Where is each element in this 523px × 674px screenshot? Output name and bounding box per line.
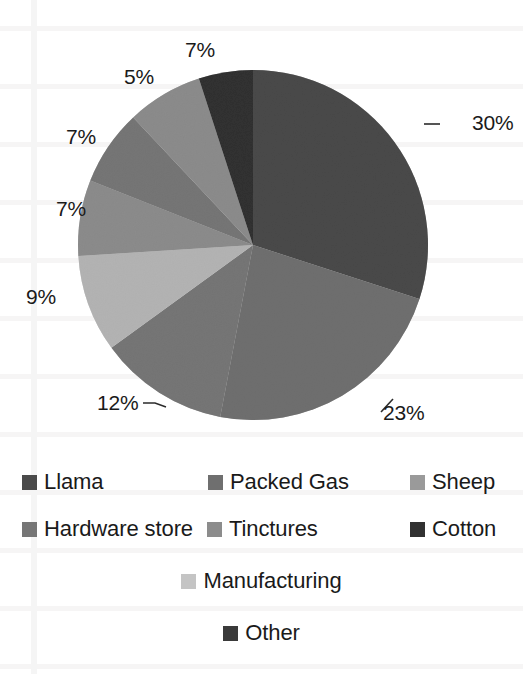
legend-swatch-icon	[207, 522, 222, 537]
legend-item-hardware-store[interactable]: Hardware store	[22, 518, 193, 540]
legend-label: Llama	[44, 471, 103, 493]
legend-row: Manufacturing	[0, 559, 523, 603]
legend-label: Packed Gas	[230, 471, 349, 493]
legend-label: Hardware store	[44, 518, 193, 540]
legend-item-llama[interactable]: Llama	[22, 471, 103, 493]
data-label-manufacturing: 7%	[185, 38, 215, 62]
chart-legend: Llama Packed Gas Sheep Hardware store Ti…	[0, 455, 523, 674]
pie-chart: 30% 23% 12% 9% 7% 7% 5% 7%	[0, 0, 523, 460]
legend-label: Tinctures	[229, 518, 318, 540]
leader-line-sheep	[143, 403, 166, 407]
legend-swatch-icon	[22, 475, 37, 490]
data-label-packed-gas: 23%	[383, 401, 424, 425]
legend-swatch-icon	[22, 522, 37, 537]
pie-grain-overlay	[78, 70, 428, 420]
legend-swatch-icon	[410, 475, 425, 490]
data-label-tinctures: 7%	[56, 197, 86, 221]
legend-swatch-icon	[208, 475, 223, 490]
legend-label: Manufacturing	[203, 570, 341, 592]
legend-item-packed-gas[interactable]: Packed Gas	[208, 471, 349, 493]
legend-item-sheep[interactable]: Sheep	[410, 471, 495, 493]
legend-row: Hardware store Tinctures Cotton	[0, 507, 523, 551]
pie-chart-graphic	[0, 0, 523, 460]
legend-label: Cotton	[432, 518, 496, 540]
legend-item-manufacturing[interactable]: Manufacturing	[181, 570, 341, 592]
legend-item-other[interactable]: Other	[223, 622, 300, 644]
data-label-llama: 30%	[472, 111, 513, 135]
legend-row: Llama Packed Gas Sheep	[0, 460, 523, 504]
legend-row: Other	[0, 611, 523, 655]
legend-swatch-icon	[410, 522, 425, 537]
data-label-hardware-store: 9%	[26, 285, 56, 309]
legend-swatch-icon	[223, 626, 238, 641]
data-label-cotton: 7%	[66, 125, 96, 149]
legend-item-tinctures[interactable]: Tinctures	[207, 518, 318, 540]
legend-item-cotton[interactable]: Cotton	[410, 518, 496, 540]
legend-label: Other	[245, 622, 300, 644]
legend-swatch-icon	[181, 574, 196, 589]
legend-label: Sheep	[432, 471, 495, 493]
data-label-other: 5%	[124, 65, 154, 89]
data-label-sheep: 12%	[97, 391, 138, 415]
